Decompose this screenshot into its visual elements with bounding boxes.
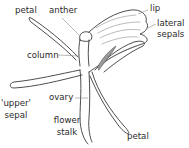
petal-lower-shape	[90, 72, 129, 134]
label-anther: anther	[49, 5, 77, 15]
label-ovary: ovary	[49, 92, 73, 102]
label-petal-top: petal	[15, 5, 37, 15]
lateral-sepals-leader-line	[148, 24, 156, 28]
column-shape	[79, 40, 89, 66]
anther-leader-line	[62, 18, 79, 35]
label-lateral-sepals-1: lateral	[157, 18, 185, 28]
label-column: column	[27, 50, 59, 60]
upper-sepal-shape	[10, 70, 82, 88]
label-upper-sepal-2: sepal	[1, 110, 31, 120]
label-petal-bottom: petal	[127, 131, 149, 141]
label-flower-stalk-1: flower	[53, 115, 81, 125]
label-upper-sepal-1: 'upper'	[1, 98, 31, 108]
label-flower-stalk-2: stalk	[53, 127, 81, 137]
anther-shape	[80, 32, 92, 42]
label-lateral-sepals-2: sepals	[157, 29, 184, 39]
label-lip: lip	[150, 3, 160, 13]
orchid-diagram: petal anther lip lateral sepals column '…	[0, 0, 189, 148]
flower-stalk-shape	[80, 70, 92, 144]
